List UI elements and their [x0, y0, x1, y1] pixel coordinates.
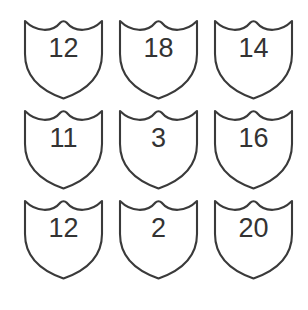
shield-icon [212, 18, 295, 101]
shield-icon [22, 198, 105, 281]
shield-badge[interactable]: 12 [22, 198, 105, 281]
shield-badge[interactable]: 2 [117, 198, 200, 281]
shield-badge[interactable]: 3 [117, 108, 200, 191]
shield-icon [22, 108, 105, 191]
shield-icon [117, 198, 200, 281]
shield-badge[interactable]: 18 [117, 18, 200, 101]
shield-grid: 12 18 14 11 3 16 12 [0, 0, 308, 310]
shield-icon [22, 18, 105, 101]
shield-icon [117, 18, 200, 101]
shield-icon [212, 108, 295, 191]
shield-badge[interactable]: 11 [22, 108, 105, 191]
shield-badge[interactable]: 16 [212, 108, 295, 191]
shield-icon [212, 198, 295, 281]
shield-badge[interactable]: 14 [212, 18, 295, 101]
shield-badge[interactable]: 12 [22, 18, 105, 101]
shield-badge[interactable]: 20 [212, 198, 295, 281]
shield-icon [117, 108, 200, 191]
